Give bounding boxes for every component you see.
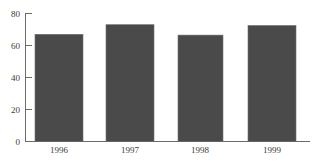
x-tick-label-1998: 1998 [191,145,210,155]
bar-1999 [248,26,296,142]
x-tick-label-1997: 1997 [121,145,140,155]
x-tick-label-1999: 1999 [263,145,282,155]
bar-1998 [178,35,223,141]
y-tick-label-80: 80 [11,9,21,19]
y-tick-label-20: 20 [11,105,21,115]
y-tick-label-60: 60 [11,41,21,51]
y-tick-label-40: 40 [11,73,21,83]
x-tick-label-1996: 1996 [50,145,69,155]
bar-1997 [106,25,154,142]
bar-1996 [35,34,83,141]
chart-canvas: 0 20 40 60 80 1996 1997 1998 1999 [0,0,315,161]
y-tick-label-0: 0 [16,137,21,147]
bar-chart: 0 20 40 60 80 1996 1997 1998 1999 [0,0,315,161]
